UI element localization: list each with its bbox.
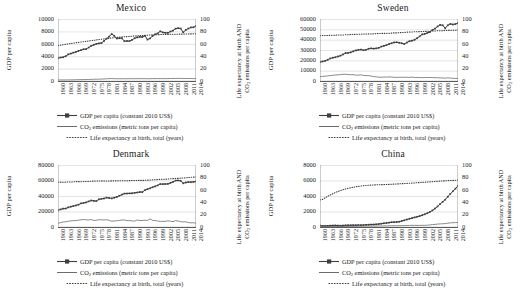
x-tick-label: 1999 <box>422 229 428 241</box>
legend-swatch-life-dotted-line <box>66 279 88 288</box>
x-tick-label: 2014 <box>198 83 204 95</box>
y-axis-title-left-text: GDP per capita <box>5 30 12 70</box>
y-axis-title-right-text: Life expectancy at birth ANDCO2 emission… <box>235 24 251 99</box>
legend-swatch-co2-line <box>318 122 340 131</box>
x-tick-label: 1990 <box>399 229 405 241</box>
y-axis-title-left: GDP per capita <box>2 19 14 81</box>
y-tick-label: 80000 <box>38 162 54 168</box>
y-tick-label: 40000 <box>300 36 316 42</box>
x-tick-label: 1972 <box>91 83 97 95</box>
legend-label-gdp: GDP per capita (constant 2010 US$) <box>80 258 172 265</box>
y-tick-label: 6000 <box>41 41 54 47</box>
legend-item-co2: CO2 emissions (metric tons per capita) <box>56 267 222 278</box>
chart-grid: MexicoGDP per capitaLife expectancy at b… <box>0 0 524 292</box>
x-tick-label: 2005 <box>437 83 443 95</box>
x-tick-label: 1975 <box>99 83 105 95</box>
x-tick-label: 1966 <box>76 83 82 95</box>
y-axis-title-right-text: Life expectancy at birth ANDCO2 emission… <box>497 170 513 245</box>
y-axis-title-left: GDP per capita <box>264 165 276 227</box>
y-tick-label: 6000 <box>303 177 316 183</box>
y2-tick-label: 20 <box>200 65 206 71</box>
y-tick-label: 20000 <box>300 57 316 63</box>
x-tick-label: 2014 <box>198 229 204 241</box>
y2-tick-label: 80 <box>462 28 468 34</box>
y-axis-title-right-text: Life expectancy at birth ANDCO2 emission… <box>235 170 251 245</box>
x-tick-label: 1987 <box>129 229 135 241</box>
chart-legend: GDP per capita (constant 2010 US$)CO2 em… <box>304 110 484 143</box>
y-tick-label: 10000 <box>38 16 54 22</box>
legend-swatch-co2-line <box>318 268 340 277</box>
x-tick-label: 2008 <box>445 83 451 95</box>
x-tick-label: 1972 <box>353 83 359 95</box>
x-tick-label: 1999 <box>160 229 166 241</box>
y-tick-labels-left: 0100002000030000400005000060000 <box>276 19 318 81</box>
legend-swatch-gdp-marker-line <box>318 111 340 120</box>
x-tick-label: 1996 <box>152 229 158 241</box>
y2-tick-label: 20 <box>200 211 206 217</box>
y-tick-label: 4000 <box>303 193 316 199</box>
y2-tick-label: 80 <box>462 174 468 180</box>
y-axis-title-left-text: GDP per capita <box>267 176 274 216</box>
y-tick-label: 60000 <box>300 16 316 22</box>
x-tick-label: 1969 <box>83 83 89 95</box>
y2-tick-label: 20 <box>462 65 468 71</box>
y2-tick-label: 60 <box>200 187 206 193</box>
legend-item-gdp: GDP per capita (constant 2010 US$) <box>56 110 222 121</box>
x-tick-label: 1975 <box>99 229 105 241</box>
y-tick-label: 0 <box>51 224 54 230</box>
x-tick-label: 1972 <box>353 229 359 241</box>
legend-swatch-gdp-marker-line <box>56 257 78 266</box>
y-tick-label: 4000 <box>41 53 54 59</box>
y-axis-title-right: Life expectancy at birth ANDCO2 emission… <box>490 6 520 116</box>
x-tick-label: 1966 <box>76 229 82 241</box>
chart-legend: GDP per capita (constant 2010 US$)CO2 em… <box>304 256 484 289</box>
legend-label-gdp: GDP per capita (constant 2010 US$) <box>342 258 434 265</box>
x-tick-label: 1981 <box>376 229 382 241</box>
legend-label-life: Life expectancy at birth, total (years) <box>352 280 445 287</box>
x-tick-label: 2002 <box>168 229 174 241</box>
x-tick-labels: 1960196319661969197219751978198119841987… <box>320 229 458 255</box>
y-tick-labels-right: 020406080100 <box>459 165 485 227</box>
legend-swatch-life-dotted-line <box>328 133 350 142</box>
x-tick-label: 1996 <box>414 229 420 241</box>
chart-panel-mexico: MexicoGDP per capitaLife expectancy at b… <box>0 0 262 146</box>
legend-label-life: Life expectancy at birth, total (years) <box>352 134 445 141</box>
legend-swatch-co2-line <box>56 122 78 131</box>
x-tick-label: 2008 <box>445 229 451 241</box>
y-tick-label: 50000 <box>300 26 316 32</box>
x-tick-label: 2005 <box>175 229 181 241</box>
y-tick-label: 8000 <box>41 28 54 34</box>
chart-panel-sweden: SwedenGDP per capitaLife expectancy at b… <box>262 0 524 146</box>
x-tick-label: 2014 <box>460 83 466 95</box>
x-tick-label: 2014 <box>460 229 466 241</box>
x-tick-label: 1960 <box>322 229 328 241</box>
x-tick-label: 1978 <box>106 83 112 95</box>
x-tick-label: 1990 <box>399 83 405 95</box>
y-axis-title-right: Life expectancy at birth ANDCO2 emission… <box>228 6 258 116</box>
legend-label-life: Life expectancy at birth, total (years) <box>90 134 183 141</box>
legend-label-gdp: GDP per capita (constant 2010 US$) <box>80 112 172 119</box>
y-tick-label: 10000 <box>300 67 316 73</box>
legend-label-gdp: GDP per capita (constant 2010 US$) <box>342 112 434 119</box>
chart-title: Sweden <box>262 3 524 13</box>
chart-legend: GDP per capita (constant 2010 US$)CO2 em… <box>42 110 222 143</box>
y2-tick-label: 60 <box>462 41 468 47</box>
y-tick-labels-left: 020000400006000080000 <box>14 165 56 227</box>
legend-item-gdp: GDP per capita (constant 2010 US$) <box>318 256 484 267</box>
legend-swatch-gdp-marker-line <box>318 257 340 266</box>
x-tick-label: 1969 <box>345 83 351 95</box>
y2-tick-label: 40 <box>200 53 206 59</box>
x-tick-label: 2005 <box>175 83 181 95</box>
legend-item-co2: CO2 emissions (metric tons per capita) <box>318 121 484 132</box>
y-tick-labels-right: 020406080100 <box>197 19 223 81</box>
y-tick-label: 8000 <box>303 162 316 168</box>
x-tick-label: 2005 <box>437 229 443 241</box>
y-tick-label: 60000 <box>38 177 54 183</box>
legend-item-co2: CO2 emissions (metric tons per capita) <box>56 121 222 132</box>
x-tick-label: 1993 <box>145 83 151 95</box>
x-tick-label: 1984 <box>122 83 128 95</box>
y-tick-label: 2000 <box>303 208 316 214</box>
x-tick-label: 1972 <box>91 229 97 241</box>
y-axis-title-right-text: Life expectancy at birth ANDCO2 emission… <box>497 24 513 99</box>
x-tick-label: 1984 <box>384 83 390 95</box>
